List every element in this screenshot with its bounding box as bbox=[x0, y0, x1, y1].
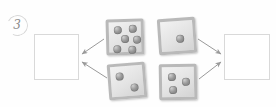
dice-pip bbox=[121, 35, 129, 43]
dice-face bbox=[109, 22, 142, 53]
dice-pip bbox=[115, 72, 124, 81]
dice-tile-one[interactable] bbox=[157, 17, 197, 56]
dice-tile-six[interactable] bbox=[106, 19, 145, 56]
dice-pip bbox=[129, 25, 137, 33]
arrow-two-to-left bbox=[82, 62, 107, 78]
dice-pip bbox=[169, 86, 177, 94]
dice-pip bbox=[114, 26, 122, 34]
answer-box-left[interactable] bbox=[34, 34, 79, 80]
dice-face bbox=[160, 20, 194, 52]
dice-face bbox=[162, 67, 195, 98]
dice-face bbox=[110, 65, 144, 97]
dice-pip bbox=[130, 83, 139, 92]
dice-pip bbox=[133, 36, 141, 44]
answer-box-right[interactable] bbox=[224, 34, 270, 80]
arrow-one-to-right bbox=[198, 39, 221, 54]
dice-tile-three[interactable] bbox=[159, 64, 198, 101]
item-number: 3 bbox=[6, 14, 28, 36]
worksheet-canvas: 3 bbox=[0, 0, 276, 107]
dice-tile-two[interactable] bbox=[107, 62, 148, 101]
dice-pip bbox=[128, 46, 136, 54]
dice-pip bbox=[168, 73, 176, 81]
arrow-six-to-left bbox=[82, 39, 104, 54]
dice-pip bbox=[176, 35, 185, 44]
dice-pip bbox=[182, 78, 190, 86]
dice-pip bbox=[113, 45, 121, 53]
arrow-three-to-right bbox=[199, 62, 221, 79]
